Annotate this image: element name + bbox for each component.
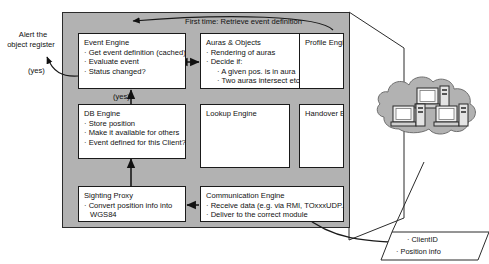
box-item: · Store position (84, 119, 180, 129)
label-alert-object-register-line1: Alert the (4, 30, 62, 39)
box-title: Communication Engine (206, 191, 338, 201)
box-title: DB Engine (84, 109, 180, 119)
box-title: Sighting Proxy (84, 191, 180, 201)
diagram-canvas: Event Engine · Get event definition (cac… (0, 0, 489, 264)
label-alert-object-register-line2: object register (0, 40, 62, 49)
box-item: · Decide if: (206, 57, 302, 67)
box-event-engine[interactable]: Event Engine · Get event definition (cac… (78, 33, 186, 89)
box-item: WGS84 (84, 210, 180, 220)
box-item: · Deliver to the correct module (206, 210, 338, 220)
box-communication-engine[interactable]: Communication Engine · Receive data (e.g… (200, 186, 344, 222)
box-lookup-engine[interactable]: Lookup Engine (200, 104, 290, 168)
box-title: Auras & Objects (206, 38, 302, 48)
box-item: · Event defined for this Client? (84, 138, 180, 148)
box-handover-engine[interactable]: Handover Engine (299, 104, 344, 168)
box-sighting-proxy[interactable]: Sighting Proxy · Convert position info i… (78, 186, 186, 222)
box-profile-engine[interactable]: Profile Engine (299, 33, 344, 89)
network-cloud (377, 77, 475, 134)
box-item: · Receive data (e.g. via RMI, TOxxxUDP..… (206, 201, 338, 211)
label-position-info: · Position info (396, 247, 441, 257)
box-item: · Status changed? (84, 67, 180, 77)
box-title: Lookup Engine (206, 109, 284, 119)
box-item: · Evaluate event (84, 57, 180, 67)
workstation-left (391, 104, 425, 126)
label-client-id: · ClientID (407, 235, 438, 245)
box-item: · A given pos. is in aura (206, 67, 302, 77)
box-title: Handover Engine (305, 109, 338, 119)
workstation-right (434, 104, 468, 126)
box-db-engine[interactable]: DB Engine · Store position · Make it ava… (78, 104, 186, 159)
label-yes-left: (yes) (28, 66, 45, 75)
label-first-time-retrieve: First time: Retrieve event definition (185, 17, 302, 26)
box-auras-objects[interactable]: Auras & Objects · Rendering of auras · D… (200, 33, 308, 89)
label-yes-center: (yes) (113, 92, 130, 101)
box-title: Profile Engine (305, 38, 338, 48)
box-item: · Two auras intersect etc. (206, 76, 302, 86)
box-item: · Rendering of auras (206, 48, 302, 58)
box-title: Event Engine (84, 38, 180, 48)
box-item: · Get event definition (cached) (84, 48, 180, 58)
box-item: · Convert position info into (84, 201, 180, 211)
box-item: · Make it available for others (84, 128, 180, 138)
